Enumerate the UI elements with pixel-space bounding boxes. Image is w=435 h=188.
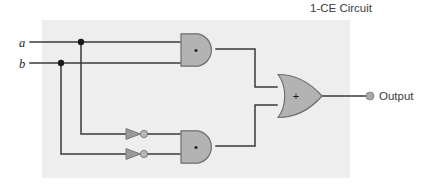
or-gate-symbol: + — [293, 90, 299, 102]
circuit-diagram-canvas: 1-CE Circuit a b • • — [0, 0, 435, 188]
junction-a — [78, 39, 84, 45]
and-gate-top-symbol: • — [194, 44, 198, 56]
and-gate-bottom-symbol: • — [194, 141, 198, 153]
diagram-title: 1-CE Circuit — [310, 2, 373, 14]
and-gate-bottom[interactable]: • — [181, 131, 211, 163]
input-label-b: b — [19, 57, 25, 71]
inverter-a-bubble — [140, 130, 147, 137]
inverter-b-bubble — [140, 150, 147, 157]
junction-b — [58, 60, 64, 66]
output-terminal-dot[interactable] — [366, 92, 374, 100]
output-label: Output — [379, 90, 414, 102]
circuit-svg: 1-CE Circuit a b • • — [0, 0, 435, 188]
input-label-a: a — [19, 36, 25, 50]
and-gate-top[interactable]: • — [181, 34, 211, 66]
